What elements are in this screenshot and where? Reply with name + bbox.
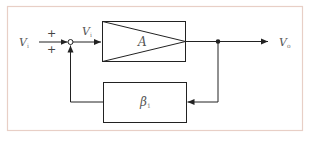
plus-sign-top: +: [47, 27, 56, 40]
plus-sign-bottom: +: [47, 43, 56, 56]
summing-junction: [68, 40, 73, 45]
feedback-block-diagram: Vi + + Vi A β1 Vo: [0, 0, 309, 141]
forward-block-label: A: [137, 35, 147, 49]
